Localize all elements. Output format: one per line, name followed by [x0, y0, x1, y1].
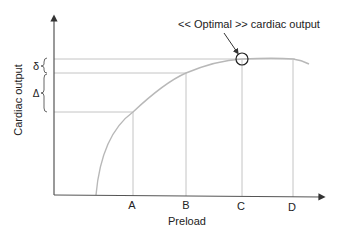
- x-axis: [54, 195, 322, 197]
- annotation-arrow: [224, 33, 237, 52]
- optimal-annotation: << Optimal >> cardiac output: [178, 18, 320, 30]
- frank-starling-diagram: δ Δ Cardiac output Preload A B C D << Op…: [0, 0, 337, 236]
- delta-small-label: δ: [33, 60, 39, 72]
- y-axis-label: Cardiac output: [12, 64, 24, 136]
- delta-small-bracket: [41, 58, 47, 73]
- tick-label-c: C: [237, 200, 245, 212]
- tick-label-d: D: [288, 201, 296, 213]
- tick-label-a: A: [128, 199, 136, 211]
- delta-large-bracket: [41, 74, 47, 112]
- x-axis-label: Preload: [168, 215, 206, 227]
- cardiac-output-curve: [96, 58, 309, 195]
- delta-large-label: Δ: [33, 88, 40, 99]
- tick-label-b: B: [182, 199, 189, 211]
